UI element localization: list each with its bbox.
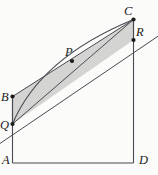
- point-C: [131, 17, 135, 21]
- label-C: C: [124, 4, 133, 18]
- geometry-figure: A B C D P Q R: [0, 0, 158, 175]
- label-B: B: [1, 90, 9, 104]
- label-A: A: [1, 153, 10, 167]
- point-Q: [10, 122, 14, 126]
- label-D: D: [138, 153, 148, 167]
- geometry-canvas: A B C D P Q R: [0, 0, 158, 175]
- point-P: [70, 59, 74, 63]
- label-R: R: [135, 25, 144, 39]
- point-R: [131, 38, 135, 42]
- segment-BC: [13, 20, 134, 97]
- point-B: [10, 94, 14, 98]
- segment-QC: [13, 20, 134, 125]
- label-P: P: [64, 45, 73, 59]
- label-Q: Q: [0, 118, 9, 132]
